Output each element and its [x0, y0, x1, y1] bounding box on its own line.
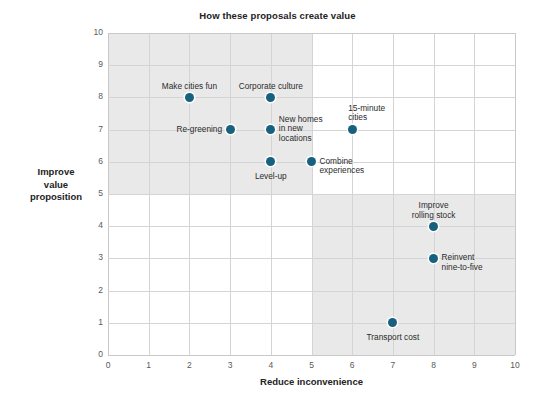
gridline-vertical — [515, 33, 516, 355]
data-point-label: Level-up — [255, 172, 287, 182]
data-point[interactable] — [307, 157, 316, 166]
gridline-horizontal — [108, 355, 515, 356]
gridline-horizontal — [108, 226, 515, 227]
data-point-label: Make cities fun — [162, 82, 217, 92]
data-point[interactable] — [429, 254, 438, 263]
x-tick-label: 2 — [177, 360, 201, 370]
data-point-label: New homes in new locations — [279, 115, 323, 144]
x-tick-label: 4 — [259, 360, 283, 370]
data-point-label: Corporate culture — [239, 82, 303, 92]
y-tick-label: 6 — [81, 156, 103, 166]
x-tick-label: 3 — [218, 360, 242, 370]
y-tick-label: 0 — [81, 349, 103, 359]
gridline-horizontal — [108, 97, 515, 98]
y-axis-title-line: Improve — [14, 166, 98, 179]
plot-area: Make cities funCorporate cultureRe-green… — [108, 33, 515, 355]
gridline-horizontal — [108, 65, 515, 66]
data-point[interactable] — [185, 93, 194, 102]
data-point-label: Re-greening — [176, 125, 222, 135]
x-tick-label: 9 — [462, 360, 486, 370]
data-point-label: Transport cost — [367, 333, 420, 343]
y-tick-label: 3 — [81, 252, 103, 262]
data-point-label: Reinvent nine-to-five — [442, 253, 483, 272]
y-tick-label: 2 — [81, 285, 103, 295]
x-tick-label: 5 — [300, 360, 324, 370]
y-tick-label: 4 — [81, 220, 103, 230]
x-tick-label: 6 — [340, 360, 364, 370]
y-tick-label: 7 — [81, 124, 103, 134]
y-tick-label: 9 — [81, 59, 103, 69]
x-tick-label: 1 — [137, 360, 161, 370]
x-axis-title: Reduce inconvenience — [108, 376, 515, 387]
y-tick-label: 10 — [81, 27, 103, 37]
x-tick-label: 8 — [422, 360, 446, 370]
y-axis-title-line: value — [14, 179, 98, 192]
data-point[interactable] — [226, 125, 235, 134]
gridline-horizontal — [108, 194, 515, 195]
y-tick-label: 8 — [81, 91, 103, 101]
y-tick-label: 1 — [81, 317, 103, 327]
x-tick-label: 10 — [503, 360, 527, 370]
gridline-horizontal — [108, 323, 515, 324]
data-point[interactable] — [429, 222, 438, 231]
x-tick-label: 7 — [381, 360, 405, 370]
data-point-label: Improve rolling stock — [412, 201, 456, 220]
y-axis-title-line: proposition — [14, 191, 98, 204]
y-axis-title: Improvevalueproposition — [14, 166, 98, 204]
gridline-horizontal — [108, 291, 515, 292]
data-point[interactable] — [348, 125, 357, 134]
x-tick-label: 0 — [96, 360, 120, 370]
gridline-horizontal — [108, 33, 515, 34]
data-point-label: Combine experiences — [320, 157, 365, 176]
chart-title: How these proposals create value — [0, 10, 555, 21]
scatter-chart: How these proposals create value Make ci… — [0, 0, 555, 398]
data-point-label: 15-minute cities — [348, 104, 385, 123]
